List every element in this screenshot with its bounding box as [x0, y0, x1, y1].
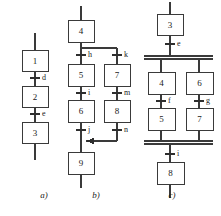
step-label: 8: [115, 106, 120, 116]
step-label: 5: [79, 70, 84, 80]
step-label: 4: [159, 78, 164, 88]
step-label: 4: [79, 26, 84, 36]
step-label: 6: [79, 106, 84, 116]
step-label: 7: [115, 70, 120, 80]
transition-label: i: [88, 88, 91, 97]
transition-label: m: [124, 88, 131, 97]
transition-label: g: [206, 96, 210, 105]
panel-caption: c): [169, 190, 176, 200]
panel-c: 3 4 6 5 7 8 e f g i c): [144, 2, 213, 200]
step-label: 2: [33, 92, 38, 102]
panel-caption: b): [92, 190, 100, 200]
step-label: 8: [168, 168, 173, 178]
step-label: 5: [159, 114, 164, 124]
transition-label: i: [177, 149, 180, 158]
step-label: 3: [33, 128, 38, 138]
merge-arrow-icon: [86, 138, 94, 145]
sfc-figure: 1 2 3 d e a): [0, 0, 221, 216]
step-label: 7: [197, 114, 202, 124]
transition-label: e: [177, 39, 181, 48]
transition-label: e: [42, 109, 46, 118]
step-label: 9: [79, 158, 84, 168]
panel-b: 4 5 7 6 8 9 h k i m j n b): [68, 6, 131, 200]
transition-label: d: [42, 73, 46, 82]
panel-a: 1 2 3 d e a): [22, 33, 48, 200]
transition-label: n: [124, 125, 128, 134]
transition-label: f: [168, 96, 171, 105]
step-label: 6: [197, 78, 202, 88]
transition-label: j: [87, 125, 90, 134]
panel-caption: a): [40, 190, 48, 200]
step-label: 3: [168, 20, 173, 30]
sfc-diagram-canvas: 1 2 3 d e a): [0, 0, 221, 216]
transition-label: k: [124, 50, 128, 59]
transition-label: h: [88, 50, 92, 59]
step-label: 1: [33, 56, 38, 66]
